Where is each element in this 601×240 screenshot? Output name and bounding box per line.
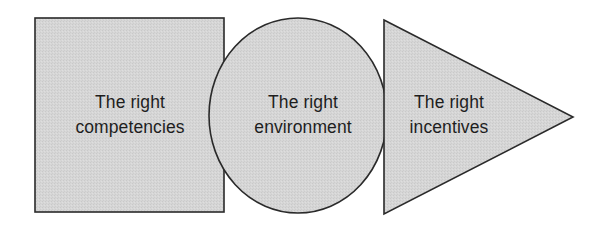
environment-label-line1: The right — [254, 90, 351, 115]
environment-label-line2: environment — [254, 115, 351, 140]
incentives-label: The right incentives — [410, 90, 489, 140]
competencies-label: The right competencies — [75, 90, 184, 140]
competencies-label-line2: competencies — [75, 115, 184, 140]
incentives-label-line1: The right — [410, 90, 489, 115]
environment-label: The right environment — [254, 90, 351, 140]
incentives-label-line2: incentives — [410, 115, 489, 140]
competencies-label-line1: The right — [75, 90, 184, 115]
